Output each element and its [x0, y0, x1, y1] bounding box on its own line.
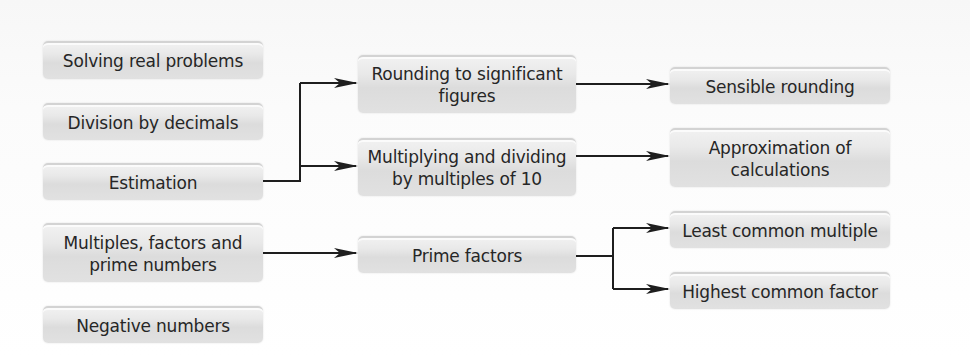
node-multiplying-dividing-10: Multiplying and dividing by multiples of…: [358, 138, 576, 196]
edge-estimation-branch: [263, 83, 300, 181]
node-negative-numbers: Negative numbers: [43, 306, 263, 343]
node-solving-real-problems: Solving real problems: [43, 41, 263, 79]
node-division-by-decimals: Division by decimals: [43, 103, 263, 140]
node-least-common-multiple: Least common multiple: [670, 211, 890, 248]
node-highest-common-factor: Highest common factor: [670, 272, 890, 309]
node-rounding-significant-figures: Rounding to significant figures: [358, 55, 576, 113]
node-approximation-of-calculations: Approximation of calculations: [670, 128, 890, 187]
node-prime-factors: Prime factors: [358, 236, 576, 273]
node-sensible-rounding: Sensible rounding: [670, 67, 890, 104]
node-estimation: Estimation: [43, 163, 263, 200]
node-multiples-factors-primes: Multiples, factors and prime numbers: [43, 223, 263, 282]
edge-prime-branch: [576, 228, 613, 289]
